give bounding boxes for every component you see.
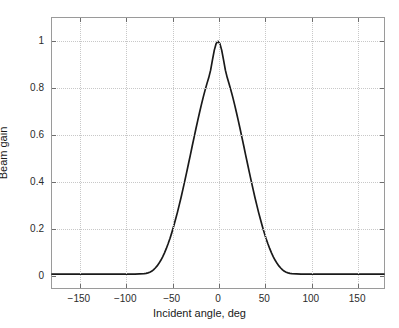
plot-area <box>51 17 385 289</box>
x-tick-top <box>312 284 313 288</box>
x-gridline <box>312 18 313 288</box>
x-tick-label: 150 <box>349 293 366 304</box>
x-gridline <box>80 18 81 288</box>
y-gridline <box>52 135 384 136</box>
y-tick-label: 0.4 <box>14 176 44 187</box>
y-tick-right <box>380 88 384 89</box>
x-tick-label: 0 <box>215 293 221 304</box>
y-gridline <box>52 88 384 89</box>
beam-gain-polyline <box>52 41 384 274</box>
y-tick <box>52 135 56 136</box>
x-tick-label: −100 <box>114 293 137 304</box>
y-tick <box>52 88 56 89</box>
x-axis-label: Incident angle, deg <box>0 307 399 319</box>
y-axis-label: Beam gain <box>0 127 9 180</box>
y-tick <box>52 41 56 42</box>
x-tick-label: −150 <box>68 293 91 304</box>
x-tick-top <box>265 284 266 288</box>
x-tick-top <box>173 284 174 288</box>
y-gridline <box>52 229 384 230</box>
x-gridline <box>173 18 174 288</box>
x-tick <box>126 18 127 22</box>
x-tick-top <box>126 284 127 288</box>
x-gridline <box>265 18 266 288</box>
x-tick-top <box>358 284 359 288</box>
x-tick-label: 100 <box>302 293 319 304</box>
x-gridline <box>219 18 220 288</box>
x-tick <box>312 18 313 22</box>
x-tick-label: 50 <box>259 293 270 304</box>
x-gridline <box>126 18 127 288</box>
x-tick-top <box>219 284 220 288</box>
y-tick-right <box>380 229 384 230</box>
y-tick-right <box>380 276 384 277</box>
x-tick-label: −50 <box>163 293 180 304</box>
y-tick <box>52 276 56 277</box>
y-tick-right <box>380 135 384 136</box>
y-tick-right <box>380 41 384 42</box>
y-tick <box>52 229 56 230</box>
y-tick-label: 0.6 <box>14 129 44 140</box>
x-gridline <box>358 18 359 288</box>
y-gridline <box>52 41 384 42</box>
y-gridline <box>52 182 384 183</box>
y-tick-label: 0.8 <box>14 82 44 93</box>
x-tick <box>219 18 220 22</box>
x-tick <box>80 18 81 22</box>
y-tick-label: 0 <box>14 269 44 280</box>
y-tick-label: 0.2 <box>14 223 44 234</box>
x-tick <box>265 18 266 22</box>
x-tick <box>173 18 174 22</box>
y-tick-right <box>380 182 384 183</box>
x-tick <box>358 18 359 22</box>
chart-page: −150−100−5005010015000.20.40.60.81 Incid… <box>0 0 399 328</box>
y-tick <box>52 182 56 183</box>
x-tick-top <box>80 284 81 288</box>
y-tick-label: 1 <box>14 35 44 46</box>
beam-gain-curve <box>52 18 384 288</box>
